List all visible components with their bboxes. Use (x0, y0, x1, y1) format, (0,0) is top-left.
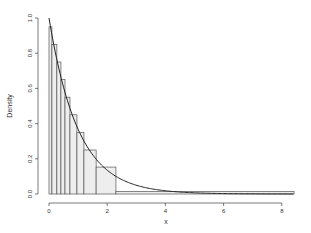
histogram-bars (49, 27, 294, 194)
x-tick-label: 8 (280, 208, 284, 214)
histogram-bin (77, 132, 84, 194)
histogram-bin (61, 80, 65, 194)
histogram-bin (70, 115, 77, 194)
histogram-bin (49, 27, 52, 194)
y-tick-label: 1.0 (27, 13, 33, 22)
y-tick-label: 0.8 (27, 48, 33, 57)
x-tick-label: 4 (164, 208, 168, 214)
x-axis: 02468 (47, 203, 284, 214)
x-axis-label: x (164, 218, 168, 225)
x-tick-label: 6 (222, 208, 226, 214)
y-tick-label: 0.2 (27, 154, 33, 163)
histogram-bin (96, 167, 116, 194)
histogram-chart: 0.00.20.40.60.81.0 02468 x Density (0, 0, 311, 233)
y-axis: 0.00.20.40.60.81.0 (27, 13, 38, 198)
y-axis-label: Density (6, 94, 14, 118)
histogram-bin (57, 62, 61, 194)
y-tick-label: 0.6 (27, 84, 33, 93)
x-tick-label: 0 (47, 208, 51, 214)
histogram-bin (65, 97, 70, 194)
histogram-bin (52, 44, 57, 194)
y-tick-label: 0.0 (27, 189, 33, 198)
y-tick-label: 0.4 (27, 119, 33, 128)
x-tick-label: 2 (106, 208, 110, 214)
